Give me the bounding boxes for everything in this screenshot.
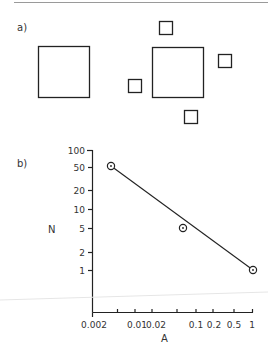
y-tick-label: 20 (74, 186, 86, 196)
small-square-top (160, 22, 173, 35)
scan-artifact-line (0, 292, 268, 300)
x-tick-label: 0.02 (146, 320, 166, 330)
small-square-left (129, 80, 142, 93)
chart-axes (87, 150, 253, 317)
y-tick-label: 1 (79, 266, 85, 276)
y-tick-labels: 100 50 20 10 5 2 1 (68, 146, 85, 276)
y-tick-label: 10 (74, 205, 86, 215)
fit-line (111, 166, 253, 270)
x-tick-label: 1 (249, 320, 255, 330)
data-point-marker (249, 266, 256, 273)
x-axis-title: A (161, 333, 168, 344)
x-tick-label: 0.01 (127, 320, 147, 330)
large-square-left (39, 47, 90, 98)
data-point-marker (107, 162, 114, 169)
y-tick-label: 50 (74, 163, 86, 173)
x-tick-labels: 0.002 0.01 0.02 0.1 0.2 0.5 1 (81, 320, 255, 330)
x-tick-label: 0.5 (227, 320, 241, 330)
y-tick-label: 5 (79, 224, 85, 234)
small-square-bottom (185, 111, 198, 124)
x-tick-label: 0.2 (207, 320, 221, 330)
small-square-right (219, 55, 232, 68)
figure-canvas: 100 50 20 10 5 2 1 0.002 0.01 0.02 0.1 0… (0, 0, 268, 355)
y-axis-title: N (48, 224, 55, 235)
large-square-right (153, 48, 204, 98)
panel-a-squares (39, 22, 232, 124)
y-tick-label: 2 (79, 248, 85, 258)
x-tick-label: 0.1 (189, 320, 203, 330)
x-tick-label: 0.002 (81, 320, 107, 330)
data-point-marker (179, 224, 186, 231)
y-tick-label: 100 (68, 146, 85, 156)
